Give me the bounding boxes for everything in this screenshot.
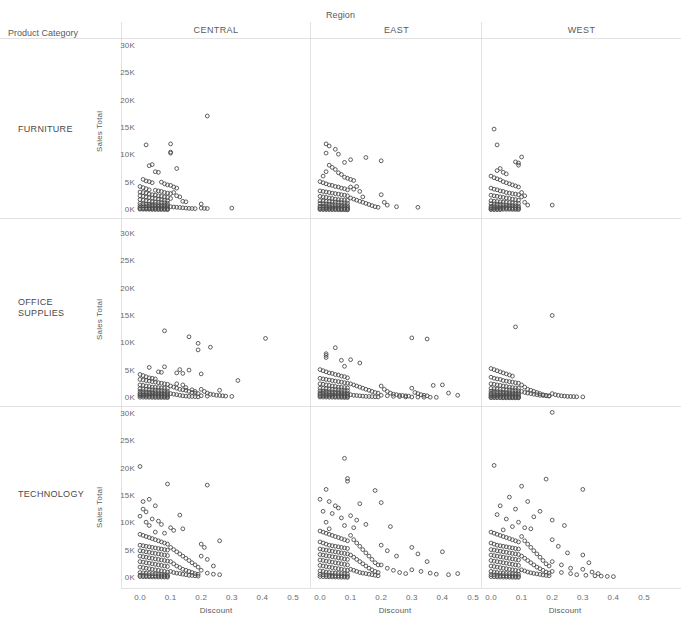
scatter-point: [138, 465, 142, 469]
scatter-panel: [126, 406, 307, 586]
scatter-point: [501, 528, 505, 532]
scatter-point: [605, 575, 609, 579]
scatter-point: [352, 538, 356, 542]
scatter-point: [187, 335, 191, 339]
scatter-point: [410, 386, 414, 390]
scatter-point: [523, 526, 527, 530]
scatter-point: [321, 509, 325, 513]
scatter-point: [212, 572, 216, 576]
scatter-point: [532, 515, 536, 519]
scatter-point: [138, 514, 142, 518]
scatter-point: [340, 358, 344, 362]
scatter-point: [593, 574, 597, 578]
scatter-point: [175, 382, 179, 386]
scatter-point: [324, 520, 328, 524]
scatter-point: [550, 560, 554, 564]
scatter-point: [385, 566, 389, 570]
scatter-point: [434, 395, 438, 399]
scatter-panel: [306, 406, 487, 586]
scatter-point: [230, 395, 234, 399]
scatter-point: [218, 388, 222, 392]
scatter-point: [373, 489, 377, 493]
scatter-point: [343, 524, 347, 528]
scatter-point: [153, 530, 157, 534]
scatter-point: [410, 568, 414, 572]
scatter-panel: [126, 38, 307, 218]
scatter-point: [550, 570, 554, 574]
scatter-point: [416, 552, 420, 556]
scatter-point: [199, 542, 203, 546]
scatter-point: [441, 383, 445, 387]
scatter-point: [550, 314, 554, 318]
scatter-point: [169, 142, 173, 146]
scatter-point: [508, 495, 512, 499]
plot-panels: [0, 0, 681, 631]
scatter-point: [230, 206, 234, 210]
scatter-point: [364, 523, 368, 527]
scatter-point: [425, 337, 429, 341]
scatter-point: [581, 553, 585, 557]
scatter-point: [144, 143, 148, 147]
scatter-point: [379, 384, 383, 388]
scatter-point: [340, 516, 344, 520]
scatter-point: [199, 202, 203, 206]
scatter-point: [404, 572, 408, 576]
scatter-point: [395, 554, 399, 558]
scatter-point: [514, 507, 518, 511]
scatter-point: [447, 573, 451, 577]
scatter-point: [147, 497, 151, 501]
scatter-point: [349, 534, 353, 538]
scatter-point: [196, 565, 200, 569]
scatter-point: [324, 151, 328, 155]
scatter-point: [205, 114, 209, 118]
scatter-point: [581, 488, 585, 492]
scatter-panel: [306, 38, 487, 218]
scatter-panel: [477, 38, 658, 218]
scatter-point: [385, 549, 389, 553]
scatter-point: [410, 546, 414, 550]
scatter-point: [410, 336, 414, 340]
scatter-point: [550, 203, 554, 207]
scatter-point: [569, 572, 573, 576]
scatter-point: [498, 504, 502, 508]
scatter-point: [364, 156, 368, 160]
scatter-point: [447, 391, 451, 395]
scatter-point: [495, 143, 499, 147]
scatter-point: [590, 570, 594, 574]
scatter-point: [532, 549, 536, 553]
scatter-point: [327, 144, 331, 148]
scatter-point: [367, 554, 371, 558]
scatter-panel: [306, 226, 487, 406]
scatter-matrix-chart: Product Category Region CENTRAL EAST WES…: [0, 0, 681, 631]
scatter-point: [318, 497, 322, 501]
scatter-point: [385, 394, 389, 398]
scatter-point: [385, 203, 389, 207]
scatter-point: [337, 152, 341, 156]
scatter-point: [333, 346, 337, 350]
scatter-point: [492, 464, 496, 468]
scatter-point: [330, 512, 334, 516]
scatter-point: [157, 519, 161, 523]
scatter-point: [523, 539, 527, 543]
scatter-point: [343, 456, 347, 460]
scatter-point: [144, 510, 148, 514]
scatter-point: [181, 372, 185, 376]
scatter-point: [327, 527, 331, 531]
scatter-point: [544, 477, 548, 481]
scatter-point: [321, 174, 325, 178]
scatter-point: [333, 168, 337, 172]
scatter-point: [333, 147, 337, 151]
scatter-point: [199, 554, 203, 558]
scatter-point: [529, 546, 533, 550]
scatter-point: [599, 574, 603, 578]
scatter-point: [566, 551, 570, 555]
scatter-point: [569, 566, 573, 570]
scatter-point: [361, 195, 365, 199]
scatter-point: [547, 564, 551, 568]
scatter-point: [166, 482, 170, 486]
scatter-point: [379, 193, 383, 197]
scatter-point: [434, 572, 438, 576]
scatter-point: [205, 558, 209, 562]
scatter-point: [560, 571, 564, 575]
scatter-point: [392, 568, 396, 572]
